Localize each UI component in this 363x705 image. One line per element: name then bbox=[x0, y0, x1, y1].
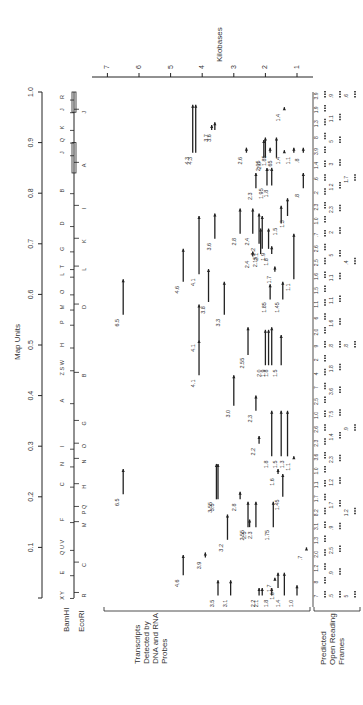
transcript-size-label: 2.3 bbox=[247, 415, 253, 423]
map-units-label: Map Units bbox=[14, 324, 22, 360]
transcript-size-label: 2.3 bbox=[247, 192, 253, 200]
orf-size-label: .7 bbox=[313, 233, 319, 237]
orf-size-label: 1.2 bbox=[328, 479, 334, 486]
bamhi-fragment-label: C bbox=[59, 482, 65, 486]
transcript-size-label: 1.8 bbox=[263, 258, 269, 266]
kilobase-tick-label: 7 bbox=[103, 65, 110, 69]
restriction-map: X YEQ U VFCNIAZ S WHPMOLTGDBJQKJRRCMP QH… bbox=[59, 92, 87, 600]
orf-size-label: 5 bbox=[328, 140, 334, 143]
map-unit-tick-label: 0.2 bbox=[27, 492, 34, 502]
orf-label-1: Predicted bbox=[320, 631, 328, 665]
transcript-size-label: 1.3 bbox=[279, 460, 285, 468]
bamhi-fragment-label: R bbox=[59, 95, 65, 99]
orf-size-label: 3.6 bbox=[328, 388, 334, 395]
orf-size-label: 8 bbox=[313, 136, 319, 139]
orf-size-label: .8 bbox=[328, 344, 334, 348]
bamhi-fragment-label: T bbox=[59, 264, 65, 268]
orf-size-label: .9 bbox=[328, 526, 334, 530]
orf-size-label: 7.5 bbox=[328, 410, 334, 417]
orf-size-label: 1.9 bbox=[313, 106, 319, 113]
orf-size-label: 1.2 bbox=[313, 565, 319, 572]
transcript-size-label: 1.45 bbox=[274, 499, 280, 510]
kilobase-tick-label: 5 bbox=[167, 65, 174, 69]
orf-size-label: 1.0 bbox=[313, 412, 319, 419]
kilobase-tick-label: 6 bbox=[135, 65, 142, 69]
transcript-size-label: 1.8 bbox=[263, 369, 269, 377]
orf-label-3: Frames bbox=[338, 638, 346, 665]
bamhi-fragment-label: J bbox=[59, 108, 65, 111]
transcript-size-label: 3.2 bbox=[218, 544, 224, 552]
transcript-size-label: 3.8 bbox=[200, 306, 206, 314]
orf-size-label: 3 bbox=[328, 163, 334, 166]
orf-size-label: 1.0 bbox=[313, 467, 319, 474]
ecori-fragment-label: J bbox=[81, 111, 87, 114]
transcript-size-label: 1.5 bbox=[272, 460, 278, 468]
transcript-size-label: 1.3 bbox=[279, 220, 285, 228]
transcript-size-label: 2.4 bbox=[244, 261, 250, 269]
ecori-fragment-label: G bbox=[81, 421, 87, 425]
transcripts-label-1: Transcripts bbox=[134, 625, 142, 664]
orf-size-label: 3.1 bbox=[313, 523, 319, 530]
transcript-size-label: 3.1 bbox=[222, 600, 228, 608]
transcript-size-label: 2.8 bbox=[231, 504, 237, 512]
transcript-size-label: 6.5 bbox=[114, 319, 120, 327]
transcripts-label-2: Detected by bbox=[143, 621, 151, 664]
ecori-fragment-label: I bbox=[81, 207, 87, 209]
ecori-fragment-label: C bbox=[81, 563, 87, 567]
bamhi-fragment-label: J bbox=[59, 151, 65, 154]
transcript-size-label: 1.85 bbox=[261, 155, 267, 166]
orf-size-label: 5 bbox=[328, 253, 334, 256]
transcript-size-label: 1.5 bbox=[272, 369, 278, 377]
transcript-size-label: 1.65 bbox=[267, 160, 273, 171]
orf-size-label: 2.0 bbox=[313, 328, 319, 335]
transcript-size-label: 1.4 bbox=[275, 157, 281, 165]
transcript-size-label: .8 bbox=[294, 158, 300, 163]
transcript-size-label: 3.5 bbox=[209, 504, 215, 512]
transcript-size-label: 1.85 bbox=[261, 302, 267, 313]
bamhi-fragment-label: X Y bbox=[59, 591, 65, 600]
orf-size-label: 8 bbox=[313, 581, 319, 584]
transcript-size-label: 2.5 bbox=[241, 531, 247, 539]
orf-size-label: 1.2 bbox=[328, 183, 334, 190]
ecori-fragment-label: R bbox=[81, 593, 87, 597]
orf-size-label: 2.6 bbox=[313, 245, 319, 252]
ecori-fragment-label: B bbox=[81, 373, 87, 377]
map-unit-tick-label: 0.5 bbox=[27, 340, 34, 350]
transcript-size-label: 1.1 bbox=[285, 157, 291, 165]
transcript-size-label: 4.1 bbox=[190, 344, 196, 352]
orf-size-label: 1.7 bbox=[328, 501, 334, 508]
transcript-size-label: 4.1 bbox=[190, 278, 196, 286]
orf-size-label: 2.5 bbox=[313, 259, 319, 266]
transcript-size-label: 2.3 bbox=[247, 531, 253, 539]
transcript-size-label: 1.7 bbox=[266, 584, 272, 592]
bamhi-fragment-label: O bbox=[59, 289, 65, 294]
orf-size-label: 1.3 bbox=[313, 120, 319, 127]
bamhi-fragment-label: M bbox=[59, 304, 65, 309]
ecori-fragment-label: D bbox=[81, 305, 87, 309]
map-unit-tick-label: 0.1 bbox=[27, 542, 34, 552]
kilobase-axis: 7654321 bbox=[92, 65, 313, 77]
orf-size-label: 1.7 bbox=[313, 495, 319, 502]
ecori-fragment-label: N bbox=[81, 459, 87, 463]
bamhi-fragment-label: P bbox=[59, 320, 65, 324]
orf-size-label: 1.5 bbox=[313, 287, 319, 294]
ecori-fragment-label: H bbox=[81, 485, 87, 489]
bamhi-fragment-label: Q bbox=[59, 137, 65, 142]
transcript-size-label: 1.4 bbox=[275, 600, 281, 608]
kilobase-tick-label: 4 bbox=[198, 65, 205, 69]
transcript-size-label: 3.9 bbox=[196, 562, 202, 570]
orf-size-label: 1.0 bbox=[313, 217, 319, 224]
ecori-fragment-label: K bbox=[81, 239, 87, 243]
transcript-size-label: 1.6 bbox=[269, 592, 275, 600]
orf-size-label: 3.9 bbox=[313, 148, 319, 155]
orf-size-label: .4 bbox=[343, 260, 349, 264]
transcript-size-label: 3.6 bbox=[206, 134, 212, 142]
transcript-size-label: 2.4 bbox=[244, 238, 250, 246]
bamhi-fragment-label: D bbox=[59, 222, 65, 226]
map-unit-tick-label: 0.3 bbox=[27, 441, 34, 451]
orf-size-label: .8 bbox=[343, 344, 349, 348]
orf-size-label: 1.4 bbox=[313, 162, 319, 169]
transcript-size-label: 2.6 bbox=[237, 157, 243, 165]
orf-size-label: .9 bbox=[328, 571, 334, 575]
orf-marks: 781.22.01.33.18.21.71.11.03.62.32.61.02.… bbox=[313, 91, 355, 598]
